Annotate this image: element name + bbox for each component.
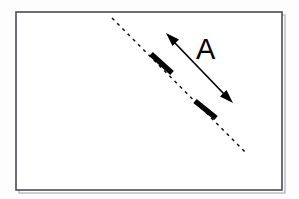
label-a: A	[196, 33, 216, 65]
diagram-frame	[16, 12, 282, 190]
figure-root: A	[0, 0, 299, 199]
diagram-canvas: A	[0, 0, 299, 199]
